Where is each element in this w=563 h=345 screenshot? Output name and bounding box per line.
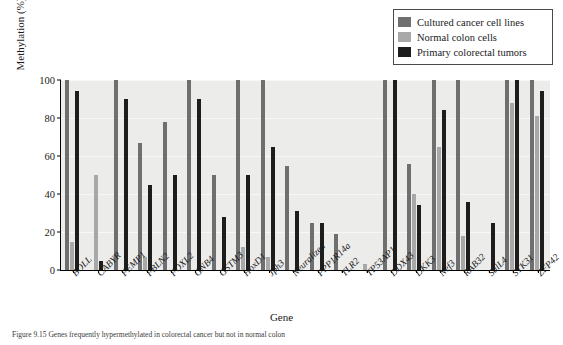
bar [393, 80, 397, 270]
bar [75, 91, 79, 270]
gene-bar-group [85, 80, 109, 270]
chart-legend: Cultured cancer cell lines Normal colon … [393, 9, 553, 65]
gene-bar-group [477, 80, 501, 270]
bar [173, 175, 177, 270]
figure-caption: Figure 9.15 Genes frequently hypermethyl… [12, 330, 285, 339]
bar [148, 185, 152, 271]
gene-bar-group [428, 80, 452, 270]
y-axis-title: Methylation (%) [14, 0, 26, 104]
gene-bar-group [110, 80, 134, 270]
legend-label: Cultured cancer cell lines [417, 17, 524, 28]
legend-swatch-icon [398, 47, 411, 57]
x-axis-title: Gene [0, 311, 563, 323]
gene-bar-group [379, 80, 403, 270]
y-tick-label: 100 [25, 75, 61, 86]
bar [515, 80, 519, 270]
bar [187, 80, 191, 270]
gene-bar-group [452, 80, 476, 270]
bar [456, 80, 460, 270]
gene-bar-group [61, 80, 85, 270]
bar [510, 103, 514, 270]
gene-bar-group [330, 80, 354, 270]
gene-bar-group [257, 80, 281, 270]
gene-bar-group [501, 80, 525, 270]
bar [466, 202, 470, 270]
legend-item-normal-colon-cells: Normal colon cells [398, 30, 547, 44]
bar [432, 80, 436, 270]
y-tick-label: 60 [25, 151, 61, 162]
gene-bar-group [232, 80, 256, 270]
bars-layer [61, 80, 550, 270]
bar [65, 80, 69, 270]
gene-bar-group [403, 80, 427, 270]
gene-bar-group [159, 80, 183, 270]
gene-bar-group [208, 80, 232, 270]
bar [124, 99, 128, 270]
bar [437, 147, 441, 271]
figure-root: Cultured cancer cell lines Normal colon … [0, 0, 563, 345]
bar [246, 175, 250, 270]
gene-bar-group [281, 80, 305, 270]
gene-bar-group [134, 80, 158, 270]
bar [417, 205, 421, 270]
bar [505, 80, 509, 270]
legend-item-cultured-cancer-cell-lines: Cultured cancer cell lines [398, 15, 547, 29]
bar [271, 147, 275, 271]
bar [94, 175, 98, 270]
bar [461, 236, 465, 270]
gene-bar-group [183, 80, 207, 270]
legend-swatch-icon [398, 17, 411, 27]
bar [535, 116, 539, 270]
bar [236, 80, 240, 270]
legend-item-primary-colorectal-tumors: Primary colorectal tumors [398, 45, 547, 59]
legend-label: Primary colorectal tumors [417, 47, 527, 58]
bar [383, 80, 387, 270]
bar [163, 122, 167, 270]
plot-area: Methylation (%) 020406080100 [60, 80, 550, 271]
gene-bar-group [526, 80, 550, 270]
legend-label: Normal colon cells [417, 32, 497, 43]
bar [530, 80, 534, 270]
bar [212, 175, 216, 270]
bar [540, 91, 544, 270]
y-tick-label: 20 [25, 227, 61, 238]
bar [197, 99, 201, 270]
legend-swatch-icon [398, 32, 411, 42]
bar [261, 80, 265, 270]
y-tick-label: 0 [25, 265, 61, 276]
bar [442, 110, 446, 270]
bar [285, 166, 289, 271]
y-tick-label: 40 [25, 189, 61, 200]
y-tick-label: 80 [25, 113, 61, 124]
gene-bar-group [354, 80, 378, 270]
bar [114, 80, 118, 270]
